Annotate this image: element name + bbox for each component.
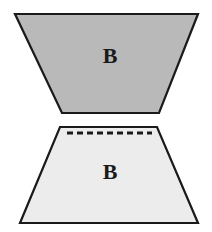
figure-canvas: B B bbox=[0, 0, 212, 232]
upper-trapezoid-label: B bbox=[103, 43, 118, 68]
geometry-figure: B B bbox=[0, 0, 212, 232]
lower-trapezoid-label: B bbox=[103, 159, 118, 184]
